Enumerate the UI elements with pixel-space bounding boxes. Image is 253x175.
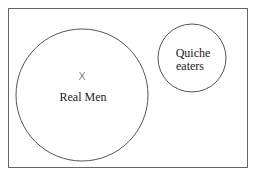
quiche-eaters-label-line-2: eaters (176, 59, 204, 73)
element-marker-x: X (78, 70, 86, 83)
euler-diagram: X Real Men Quiche eaters (0, 0, 253, 175)
real-men-label: Real Men (60, 90, 107, 104)
quiche-eaters-label-line-1: Quiche (176, 46, 211, 60)
universe-rectangle (9, 9, 248, 168)
